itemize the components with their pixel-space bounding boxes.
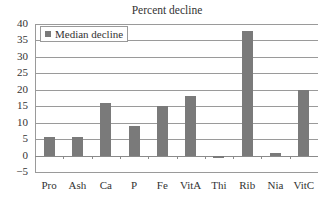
y-tick-label: 25 [2, 67, 28, 78]
bar-vita [185, 96, 196, 155]
x-tick [120, 156, 121, 159]
gridline [35, 106, 318, 107]
bar-p [129, 126, 140, 156]
y-tick-label: 35 [2, 34, 28, 45]
legend-label: Median decline [55, 28, 123, 40]
bar-nia [270, 153, 281, 155]
y-tick-label: 5 [2, 133, 28, 144]
gridline [35, 172, 318, 173]
x-tick [290, 156, 291, 159]
y-tick-label: 0 [2, 150, 28, 161]
x-tick-label: P [120, 179, 148, 191]
bar-rib [242, 31, 253, 156]
x-tick [92, 156, 93, 159]
y-tick-label: 30 [2, 51, 28, 62]
x-tick-label: Rib [233, 179, 261, 191]
y-tick-label: 20 [2, 84, 28, 95]
x-tick [148, 156, 149, 159]
y-tick-label: 40 [2, 18, 28, 29]
x-tick [233, 156, 234, 159]
x-tick-label: Thi [205, 179, 233, 191]
x-tick-label: Nia [261, 179, 289, 191]
gridline [35, 73, 318, 74]
x-tick [261, 156, 262, 159]
x-tick-label: Ca [92, 179, 120, 191]
y-tick-label: 10 [2, 117, 28, 128]
bar-vitc [298, 90, 309, 156]
x-tick [63, 156, 64, 159]
y-tick-label: −5 [2, 166, 28, 177]
x-tick-label: VitA [177, 179, 205, 191]
legend-swatch [45, 31, 51, 37]
x-tick-label: Ash [63, 179, 91, 191]
bar-ca [100, 103, 111, 156]
y-tick-label: 15 [2, 100, 28, 111]
x-tick [205, 156, 206, 159]
x-tick-label: VitC [290, 179, 318, 191]
x-tick-label: Pro [35, 179, 63, 191]
x-tick [177, 156, 178, 159]
gridline [35, 90, 318, 91]
gridline [35, 123, 318, 124]
chart-title: Percent decline [0, 4, 334, 16]
gridline [35, 57, 318, 58]
legend: Median decline [40, 26, 128, 42]
y-axis-line [35, 24, 36, 173]
bar-pro [44, 137, 55, 156]
bar-ash [72, 137, 83, 156]
bar-fe [157, 106, 168, 155]
gridline [35, 24, 318, 25]
x-tick-label: Fe [148, 179, 176, 191]
bar-thi [213, 156, 224, 159]
